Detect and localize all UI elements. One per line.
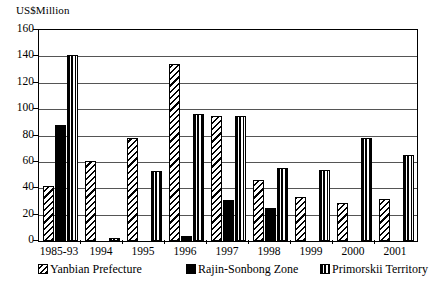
x-axis-tick-label: 2001: [384, 245, 407, 258]
x-axis-tick-labels: 1985-9319941995199619971998199920002001: [38, 245, 418, 260]
x-axis-tick-mark: [164, 240, 165, 244]
plot-area: [38, 29, 418, 242]
bar-yanbian-1998: [253, 180, 264, 241]
bar-yanbian-2001: [379, 199, 390, 241]
bar-group: [291, 30, 333, 241]
bar-group: [123, 30, 165, 241]
legend-label: Yanbian Prefecture: [50, 262, 142, 276]
x-axis-tick-label: 1995: [132, 245, 155, 258]
bar-primorskii-1998: [277, 168, 288, 241]
bar-yanbian-1996: [169, 64, 180, 241]
bar-group: [375, 30, 417, 241]
x-axis-tick-label: 1994: [90, 245, 113, 258]
bar-rajin-1998: [265, 208, 276, 241]
bar-yanbian-2000: [337, 203, 348, 241]
bar-primorskii-2001: [403, 155, 414, 241]
legend-item-rajin: Rajin-Sonbong Zone: [186, 262, 298, 276]
bar-primorskii-1995: [151, 171, 162, 241]
bar-primorskii-1985-93: [67, 55, 78, 241]
chart-legend: Yanbian PrefectureRajin-Sonbong ZonePrim…: [38, 262, 428, 279]
bar-rajin-1985-93: [55, 125, 66, 241]
x-axis-tick-mark: [80, 240, 81, 244]
bar-group: [81, 30, 123, 241]
primorskii-swatch-icon: [320, 264, 330, 274]
bar-group: [249, 30, 291, 241]
bar-group: [165, 30, 207, 241]
bar-group: [333, 30, 375, 241]
x-axis-tick-label: 2000: [342, 245, 365, 258]
x-axis-tick-label: 1998: [258, 245, 281, 258]
legend-label: Rajin-Sonbong Zone: [198, 262, 298, 276]
x-axis-tick-mark: [248, 240, 249, 244]
legend-item-yanbian: Yanbian Prefecture: [38, 262, 142, 276]
x-axis-tick-mark: [332, 240, 333, 244]
bar-primorskii-1999: [319, 170, 330, 241]
bar-yanbian-1985-93: [43, 186, 54, 241]
x-axis-tick-label: 1985-93: [40, 245, 78, 258]
bar-rajin-1997: [223, 200, 234, 241]
legend-item-primorskii: Primorskii Territory: [320, 262, 428, 276]
bar-yanbian-1997: [211, 116, 222, 241]
bar-yanbian-1995: [127, 138, 138, 241]
rajin-swatch-icon: [186, 264, 196, 274]
yanbian-swatch-icon: [38, 264, 48, 274]
bar-primorskii-1997: [235, 116, 246, 241]
y-axis-tick-marks: [0, 29, 38, 240]
legend-label: Primorskii Territory: [332, 262, 428, 276]
bar-chart: US$Million 020406080100120140160 1985-93…: [0, 0, 439, 282]
x-axis-tick-mark: [122, 240, 123, 244]
x-axis-tick-label: 1996: [174, 245, 197, 258]
bar-group: [39, 30, 81, 241]
y-axis-unit-label: US$Million: [16, 4, 70, 17]
x-axis-tick-mark: [206, 240, 207, 244]
bar-yanbian-1999: [295, 197, 306, 241]
x-axis-tick-label: 1997: [216, 245, 239, 258]
x-axis-tick-label: 1999: [300, 245, 323, 258]
bar-yanbian-1994: [85, 161, 96, 241]
x-axis-tick-mark: [374, 240, 375, 244]
bar-group: [207, 30, 249, 241]
bar-primorskii-1996: [193, 114, 204, 241]
x-axis-tick-mark: [290, 240, 291, 244]
bar-primorskii-2000: [361, 138, 372, 241]
